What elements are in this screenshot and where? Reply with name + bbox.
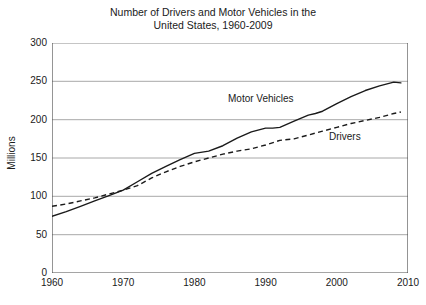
x-tick-label: 1980 xyxy=(171,278,217,288)
series-annotation-drivers: Drivers xyxy=(329,131,361,142)
x-tick-label: 1960 xyxy=(29,278,75,288)
x-tick-label: 2010 xyxy=(385,278,426,288)
series-annotation-motor-vehicles: Motor Vehicles xyxy=(228,93,294,104)
x-tick-label: 1970 xyxy=(100,278,146,288)
plot-svg xyxy=(52,43,408,273)
y-tick-label: 150 xyxy=(17,153,47,163)
x-tick-label: 1990 xyxy=(243,278,289,288)
chart-title-line-2: United States, 1960-2009 xyxy=(153,19,272,31)
chart-title: Number of Drivers and Motor Vehicles in … xyxy=(0,6,426,32)
plot-area: Motor Vehicles Drivers xyxy=(52,43,408,273)
chart-figure: Number of Drivers and Motor Vehicles in … xyxy=(0,0,426,305)
x-tick-label: 2000 xyxy=(314,278,360,288)
y-tick-label: 200 xyxy=(17,115,47,125)
chart-title-line-1: Number of Drivers and Motor Vehicles in … xyxy=(110,6,316,18)
x-axis-tick-labels: 1960 1970 1980 1990 2000 2010 xyxy=(52,278,408,292)
y-axis-tick-labels: 300 250 200 150 100 50 0 xyxy=(14,43,47,273)
y-tick-label: 300 xyxy=(17,38,47,48)
y-tick-label: 100 xyxy=(17,191,47,201)
y-tick-label: 250 xyxy=(17,76,47,86)
y-tick-label: 50 xyxy=(17,230,47,240)
series-line-drivers xyxy=(52,112,401,206)
